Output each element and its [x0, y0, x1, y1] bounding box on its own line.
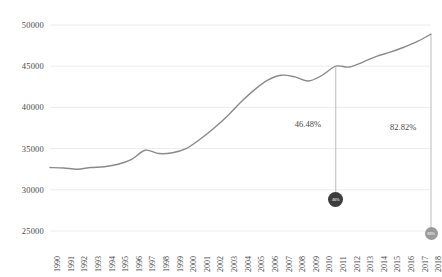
y-axis-tick-label: 30000	[2, 185, 44, 195]
gridlines	[50, 25, 431, 231]
x-axis-tick-label: 2013	[366, 256, 375, 272]
y-axis-tick-label: 25000	[2, 226, 44, 236]
line-chart-plot	[0, 0, 442, 277]
annotation-percentage-label: 46.48%	[295, 119, 321, 129]
x-axis-tick-label: 2000	[189, 256, 198, 272]
x-axis-tick-label: 2005	[257, 256, 266, 272]
x-axis-tick-label: 2011	[339, 256, 348, 272]
x-axis-tick-label: 1998	[162, 256, 171, 272]
x-axis-tick-label: 2018	[434, 256, 442, 272]
x-axis-tick-label: 2008	[298, 256, 307, 272]
x-axis-tick-label: 1996	[135, 256, 144, 272]
y-axis-tick-label: 50000	[2, 20, 44, 30]
x-axis-tick-label: 2002	[216, 256, 225, 272]
chart-container: 250003000035000400004500050000 199019911…	[0, 0, 442, 277]
x-axis-tick-label: 1994	[108, 256, 117, 272]
x-axis-tick-label: 2007	[285, 256, 294, 272]
y-axis-tick-label: 35000	[2, 144, 44, 154]
x-axis-tick-label: 2004	[244, 256, 253, 272]
x-axis-tick-label: 2015	[393, 256, 402, 272]
x-axis-tick-label: 2017	[421, 256, 430, 272]
x-axis-tick-label: 1990	[53, 256, 62, 272]
x-axis-tick-label: 2006	[271, 256, 280, 272]
x-axis-tick-label: 2003	[230, 256, 239, 272]
x-axis-tick-label: 1991	[67, 256, 76, 272]
x-axis-tick-label: 2016	[407, 256, 416, 272]
x-axis-tick-label: 2014	[380, 256, 389, 272]
x-axis-tick-label: 1993	[94, 256, 103, 272]
x-axis-tick-label: 1992	[80, 256, 89, 272]
x-axis-tick-label: 2012	[353, 256, 362, 272]
x-axis-tick-label: 1999	[176, 256, 185, 272]
y-axis-tick-label: 45000	[2, 61, 44, 71]
x-axis-tick-label: 1997	[148, 256, 157, 272]
annotation-percentage-label: 82.82%	[390, 122, 416, 132]
annotation-marker-badge[interactable]: 83%	[425, 227, 438, 240]
y-axis-tick-label: 40000	[2, 102, 44, 112]
x-axis-tick-label: 2009	[312, 256, 321, 272]
x-axis-tick-label: 2001	[203, 256, 212, 272]
x-axis-tick-label: 1995	[121, 256, 130, 272]
annotation-leader-lines	[336, 35, 431, 227]
x-axis-tick-label: 2010	[325, 256, 334, 272]
